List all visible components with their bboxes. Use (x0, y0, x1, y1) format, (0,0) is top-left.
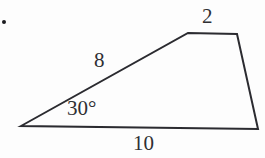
angle-label: 30° (67, 98, 96, 119)
geometry-figure: 2 8 30° 10 (0, 0, 265, 158)
quadrilateral-outline (21, 33, 258, 129)
side-label-slant: 8 (94, 50, 105, 71)
side-label-top: 2 (202, 6, 213, 27)
side-label-base: 10 (133, 133, 154, 154)
